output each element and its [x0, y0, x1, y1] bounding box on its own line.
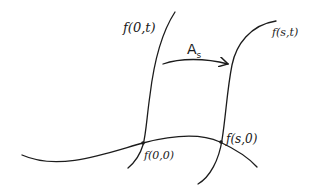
label-map-As: As	[187, 42, 201, 60]
map-arrow	[163, 60, 228, 65]
point-f00	[141, 141, 145, 145]
diagram-canvas: f(0,t) f(s,t) f(0,0) f(s,0) As	[0, 0, 325, 195]
label-fst: f(s,t)	[272, 27, 298, 38]
label-f0t: f(0,t)	[123, 21, 156, 34]
curve-right-s	[198, 21, 276, 184]
label-f00: f(0,0)	[144, 150, 174, 161]
label-fs0: f(s,0)	[226, 133, 257, 145]
point-fs0	[219, 140, 223, 144]
label-map-sub: s	[197, 50, 202, 60]
label-map: A	[187, 41, 197, 57]
